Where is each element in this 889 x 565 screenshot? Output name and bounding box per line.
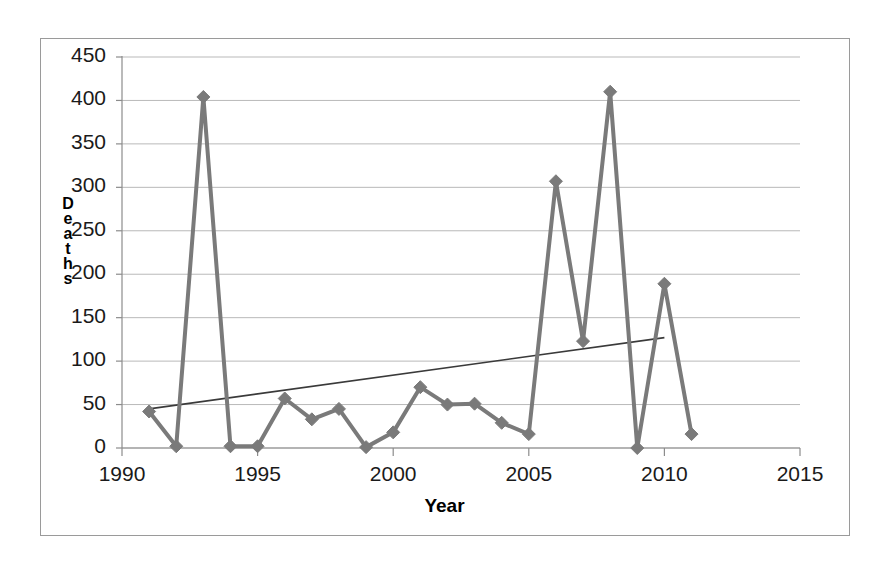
data-point-marker [604, 85, 617, 98]
x-tick-label: 1995 [213, 462, 303, 486]
y-tick-label: 350 [48, 130, 106, 154]
y-axis-title-letter: t [57, 241, 79, 256]
data-point-marker [577, 335, 590, 348]
axis-tick-marks [116, 57, 800, 456]
axis-lines [122, 56, 800, 448]
y-axis-title-letter: D [57, 196, 79, 211]
y-tick-label: 400 [48, 86, 106, 110]
y-tick-label: 100 [48, 347, 106, 371]
x-tick-label: 2015 [755, 462, 845, 486]
chart-figure: Deaths 050100150200250300350400450 19901… [0, 0, 889, 565]
x-tick-label: 2010 [619, 462, 709, 486]
x-tick-label: 1990 [77, 462, 167, 486]
data-point-marker [522, 428, 535, 441]
x-tick-label: 2000 [348, 462, 438, 486]
data-series-line [149, 92, 691, 448]
data-point-marker [685, 428, 698, 441]
y-tick-label: 200 [48, 260, 106, 284]
y-tick-label: 250 [48, 217, 106, 241]
series-polyline [149, 92, 691, 448]
y-tick-label: 50 [48, 391, 106, 415]
gridlines [122, 57, 800, 448]
data-point-marker [549, 175, 562, 188]
y-tick-label: 300 [48, 173, 106, 197]
y-tick-label: 150 [48, 304, 106, 328]
data-point-marker [197, 90, 210, 103]
x-axis-title: Year [0, 495, 889, 517]
data-point-marker [631, 442, 644, 455]
data-point-marker [658, 277, 671, 290]
y-tick-label: 450 [48, 43, 106, 67]
data-point-marker [224, 440, 237, 453]
x-tick-label: 2005 [484, 462, 574, 486]
y-tick-label: 0 [48, 434, 106, 458]
